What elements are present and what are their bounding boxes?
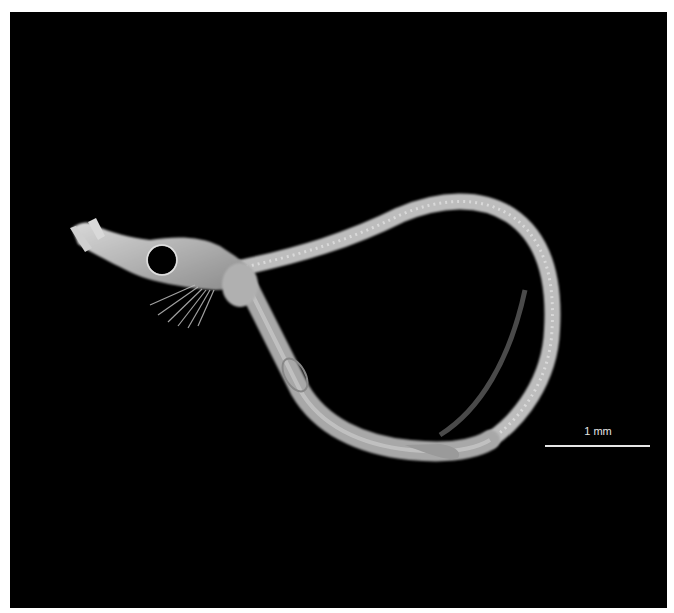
trunk-upper [240,201,553,440]
eye [148,246,176,274]
scale-bar-line [545,445,650,447]
scale-bar-label: 1 mm [575,425,621,437]
larval-fish-specimen [0,0,674,613]
pectoral-fin [150,285,214,328]
